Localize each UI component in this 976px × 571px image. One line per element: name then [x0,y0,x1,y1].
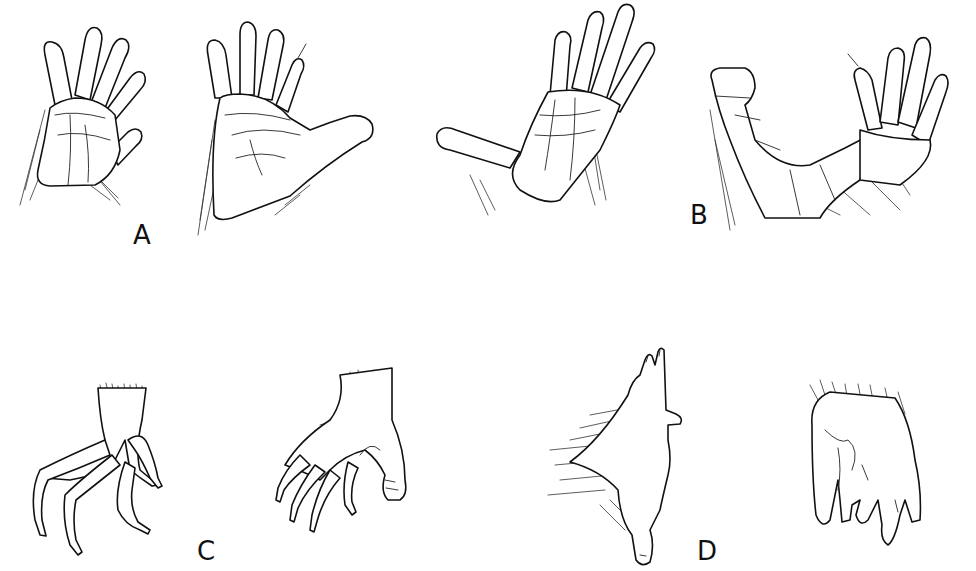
panel-label-a: A [133,222,151,248]
hand-a-left [20,28,145,206]
hand-c-right [276,368,406,532]
primate-hands-illustration [0,0,976,571]
hand-d-right [810,380,920,545]
hand-b-right [710,38,948,230]
hand-a-right [198,22,373,235]
hand-d-left [548,348,681,564]
hand-b-left [437,4,655,215]
hand-c-left [33,383,162,555]
panel-label-d: D [697,538,717,564]
panel-label-c: C [197,538,215,564]
panel-label-b: B [690,202,708,228]
